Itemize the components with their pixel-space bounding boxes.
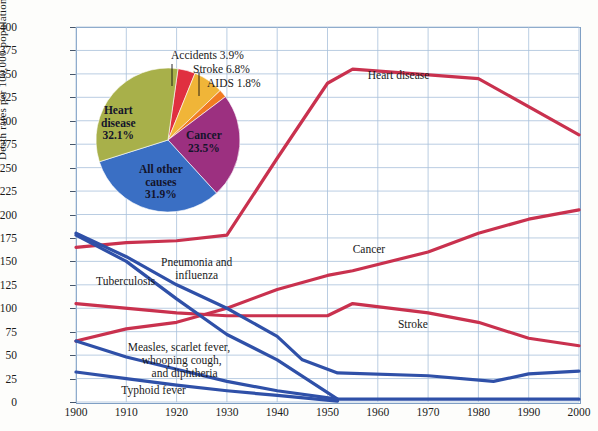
series-label: Pneumonia andinfluenza (142, 256, 252, 282)
pie-callout-label: AIDS 1.8% (207, 77, 261, 90)
mortality-figure: Death rates per 100,000 population 02550… (0, 0, 598, 431)
series-label: Stroke (398, 318, 428, 331)
pie-slice-label: Cancer23.5% (186, 129, 222, 154)
pie-slice-label: Heartdisease32.1% (101, 104, 136, 142)
series-label: Tuberculosis (96, 275, 155, 288)
series-label: Typhoid fever (121, 384, 186, 397)
pie-slice-label: All othercauses31.9% (139, 163, 183, 201)
pie-callout-label: Accidents 3.9% (171, 49, 244, 62)
series-label: Cancer (353, 243, 386, 256)
pie-callout-label: Stroke 6.8% (193, 63, 250, 76)
series-label: Measles, scarlet fever, whooping cough, … (96, 341, 261, 380)
series-label: Heart disease (368, 69, 430, 82)
chart-canvas (0, 0, 598, 431)
